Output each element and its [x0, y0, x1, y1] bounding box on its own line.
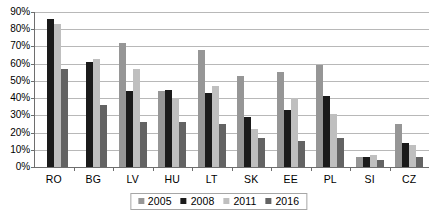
bar-slot: [363, 12, 370, 167]
legend-item[interactable]: 2016: [265, 196, 299, 207]
y-axis-tick-mark: [31, 64, 34, 65]
bar: [179, 122, 186, 167]
x-axis-category-label: SI: [350, 172, 390, 186]
y-axis-tick-label: 90%: [10, 7, 30, 17]
bar: [93, 59, 100, 168]
bar-slot: [172, 12, 179, 167]
bar-slot: [119, 12, 126, 167]
bar: [198, 50, 205, 167]
bar-slot: [219, 12, 226, 167]
bar-group: [192, 12, 232, 167]
y-axis-tick-mark: [31, 115, 34, 116]
y-axis-tick-mark: [31, 167, 34, 168]
bar: [244, 117, 251, 167]
bar-slot: [258, 12, 265, 167]
x-axis-category-label: HU: [153, 172, 193, 186]
bar-slot: [93, 12, 100, 167]
y-axis-tick-label: 60%: [10, 59, 30, 69]
y-axis-tick-mark: [31, 133, 34, 134]
bar-slot: [140, 12, 147, 167]
bar-slot: [323, 12, 330, 167]
bar: [298, 141, 305, 167]
x-axis-tick-mark: [74, 167, 75, 171]
bar: [126, 91, 133, 167]
bar: [165, 90, 172, 168]
y-axis-tick-label: 10%: [10, 145, 30, 155]
bar: [219, 124, 226, 167]
bar-slot: [298, 12, 305, 167]
x-axis-category-labels: ROBGLVHULTSKEEPLSICZ: [34, 172, 429, 186]
bar: [356, 157, 363, 167]
bar-slot: [395, 12, 402, 167]
y-axis-tick-label: 70%: [10, 41, 30, 51]
bar: [258, 138, 265, 167]
y-axis-tick-label: 0%: [16, 162, 30, 172]
x-axis-category-label: CZ: [390, 172, 430, 186]
x-axis-tick-mark: [271, 167, 272, 171]
x-axis-tick-mark: [232, 167, 233, 171]
bar: [212, 86, 219, 167]
bar-slot: [61, 12, 68, 167]
x-axis-category-label: EE: [271, 172, 311, 186]
bar: [330, 114, 337, 167]
bar-slot: [337, 12, 344, 167]
legend-swatch-icon: [265, 198, 271, 204]
bar-groups: [34, 12, 429, 167]
bar-group: [113, 12, 153, 167]
bar: [100, 105, 107, 167]
bar-slot: [237, 12, 244, 167]
bar: [133, 69, 140, 167]
legend-item[interactable]: 2005: [138, 196, 172, 207]
x-axis-tick-mark: [350, 167, 351, 171]
bar-group: [311, 12, 351, 167]
bar-slot: [100, 12, 107, 167]
bar-group: [34, 12, 74, 167]
y-axis-tick-label: 80%: [10, 24, 30, 34]
bar: [291, 98, 298, 167]
bar: [370, 155, 377, 167]
bar: [86, 62, 93, 167]
x-axis-category-label: LT: [192, 172, 232, 186]
bar-slot: [277, 12, 284, 167]
x-axis-tick-mark: [311, 167, 312, 171]
legend-swatch-icon: [138, 198, 144, 204]
bar: [323, 96, 330, 167]
legend-swatch-icon: [223, 198, 229, 204]
x-axis-category-label: BG: [74, 172, 114, 186]
legend-item[interactable]: 2008: [181, 196, 215, 207]
bar-slot: [244, 12, 251, 167]
bar-slot: [205, 12, 212, 167]
legend-swatch-icon: [181, 198, 187, 204]
bar-slot: [316, 12, 323, 167]
bar-group: [153, 12, 193, 167]
bar-slot: [291, 12, 298, 167]
bar: [402, 143, 409, 167]
bar: [316, 65, 323, 167]
bar: [409, 145, 416, 167]
legend-item[interactable]: 2011: [223, 196, 256, 207]
x-axis-tick-mark: [153, 167, 154, 171]
bar: [47, 19, 54, 167]
bar-slot: [179, 12, 186, 167]
bar-group: [74, 12, 114, 167]
x-axis-category-label: RO: [34, 172, 74, 186]
bar-slot: [198, 12, 205, 167]
y-axis-tick-mark: [31, 81, 34, 82]
y-axis-tick-mark: [31, 29, 34, 30]
y-axis-tick-label: 20%: [10, 128, 30, 138]
bar-slot: [165, 12, 172, 167]
bar: [284, 110, 291, 167]
legend-label: 2005: [148, 196, 172, 207]
bar-group: [390, 12, 430, 167]
x-axis-category-label: SK: [232, 172, 272, 186]
x-axis-category-label: LV: [113, 172, 153, 186]
bar-slot: [330, 12, 337, 167]
y-axis-tick-mark: [31, 12, 34, 13]
bar: [237, 76, 244, 167]
bar: [140, 122, 147, 167]
y-axis-tick-label: 40%: [10, 93, 30, 103]
bar-slot: [251, 12, 258, 167]
bar-slot: [158, 12, 165, 167]
bar-slot: [126, 12, 133, 167]
y-axis-tick-mark: [31, 46, 34, 47]
